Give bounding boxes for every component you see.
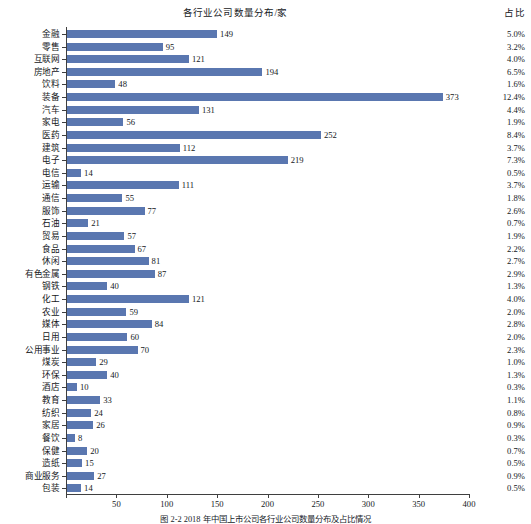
bar bbox=[67, 346, 138, 354]
x-axis-tick bbox=[66, 494, 67, 498]
x-axis-tick-label: 100 bbox=[147, 499, 187, 509]
y-axis-tick bbox=[62, 249, 66, 250]
bar bbox=[67, 320, 152, 328]
x-axis-tick bbox=[318, 494, 319, 498]
bar bbox=[67, 371, 107, 379]
bar bbox=[67, 472, 94, 480]
bar bbox=[67, 118, 123, 126]
y-axis-tick bbox=[62, 463, 66, 464]
bar bbox=[67, 194, 122, 202]
x-axis-tick-label: 350 bbox=[399, 499, 439, 509]
y-axis-tick bbox=[62, 72, 66, 73]
bar bbox=[67, 459, 82, 467]
bar bbox=[67, 80, 115, 88]
bar bbox=[67, 421, 93, 429]
y-axis-tick bbox=[62, 261, 66, 262]
y-axis-tick bbox=[62, 47, 66, 48]
bar bbox=[67, 333, 127, 341]
x-axis-tick-label: 200 bbox=[248, 499, 288, 509]
bar bbox=[67, 181, 179, 189]
bar bbox=[67, 68, 262, 76]
y-axis-tick bbox=[62, 198, 66, 199]
y-axis-tick bbox=[62, 185, 66, 186]
y-axis-tick bbox=[62, 236, 66, 237]
bar bbox=[67, 156, 288, 164]
x-axis-tick-label: 50 bbox=[96, 499, 136, 509]
bar bbox=[67, 257, 149, 265]
y-axis-tick bbox=[62, 84, 66, 85]
y-axis-tick bbox=[62, 324, 66, 325]
bar-row: 包装140.5% bbox=[0, 481, 531, 496]
bar bbox=[67, 93, 443, 101]
y-axis-tick bbox=[62, 274, 66, 275]
bar bbox=[67, 383, 77, 391]
bar bbox=[67, 169, 81, 177]
y-axis-tick bbox=[62, 160, 66, 161]
y-axis-tick bbox=[62, 337, 66, 338]
y-axis-tick bbox=[62, 425, 66, 426]
bar bbox=[67, 358, 96, 366]
category-label: 包装 bbox=[0, 481, 60, 496]
y-axis-tick bbox=[62, 362, 66, 363]
x-axis-tick bbox=[268, 494, 269, 498]
y-axis-tick bbox=[62, 413, 66, 414]
y-axis-tick bbox=[62, 312, 66, 313]
x-axis-tick bbox=[217, 494, 218, 498]
y-axis-tick bbox=[62, 173, 66, 174]
x-axis-tick bbox=[116, 494, 117, 498]
y-axis-tick bbox=[62, 211, 66, 212]
y-axis-tick bbox=[62, 122, 66, 123]
y-axis-tick bbox=[62, 299, 66, 300]
y-axis-tick bbox=[62, 59, 66, 60]
bar bbox=[67, 232, 124, 240]
y-axis-tick bbox=[62, 97, 66, 98]
bar bbox=[67, 434, 75, 442]
bar bbox=[67, 484, 81, 492]
y-axis-tick bbox=[62, 34, 66, 35]
y-axis-tick bbox=[62, 223, 66, 224]
bar bbox=[67, 131, 321, 139]
x-axis-tick bbox=[368, 494, 369, 498]
bar bbox=[67, 207, 145, 215]
x-axis-tick bbox=[469, 494, 470, 498]
bar bbox=[67, 30, 217, 38]
x-axis-tick bbox=[419, 494, 420, 498]
bar bbox=[67, 295, 189, 303]
x-axis-tick-label: 250 bbox=[298, 499, 338, 509]
y-axis-tick bbox=[62, 488, 66, 489]
bar bbox=[67, 409, 91, 417]
bar bbox=[67, 282, 107, 290]
y-axis-tick bbox=[62, 286, 66, 287]
bar bbox=[67, 106, 199, 114]
y-axis-tick bbox=[62, 387, 66, 388]
y-axis-tick bbox=[62, 476, 66, 477]
bar bbox=[67, 447, 87, 455]
y-axis-tick bbox=[62, 451, 66, 452]
figure-caption: 图 2-2 2018 年中国上市公司各行业公司数量分布及占比情况 bbox=[0, 512, 531, 524]
bar bbox=[67, 308, 126, 316]
bar bbox=[67, 245, 135, 253]
percent-column-header: 占比 bbox=[504, 5, 525, 19]
y-axis-tick bbox=[62, 375, 66, 376]
bar bbox=[67, 396, 100, 404]
x-axis-tick bbox=[167, 494, 168, 498]
bar-value-label: 14 bbox=[84, 481, 93, 496]
y-axis-tick bbox=[62, 350, 66, 351]
bar bbox=[67, 270, 155, 278]
y-axis-tick bbox=[62, 135, 66, 136]
bar bbox=[67, 219, 88, 227]
y-axis-tick bbox=[62, 400, 66, 401]
x-axis-tick-label: 150 bbox=[197, 499, 237, 509]
y-axis-tick bbox=[62, 110, 66, 111]
x-axis-tick-label: 300 bbox=[348, 499, 388, 509]
chart-page: 各行业公司数量分布/家 占比 金融1495.0%零售953.2%互联网1214.… bbox=[0, 0, 531, 524]
y-axis-tick bbox=[62, 148, 66, 149]
bar bbox=[67, 144, 180, 152]
bar bbox=[67, 55, 189, 63]
x-axis-tick-label: 400 bbox=[449, 499, 489, 509]
chart-title: 各行业公司数量分布/家 bbox=[0, 5, 470, 19]
bar bbox=[67, 43, 163, 51]
percent-value: 0.5% bbox=[507, 481, 525, 496]
y-axis-tick bbox=[62, 438, 66, 439]
